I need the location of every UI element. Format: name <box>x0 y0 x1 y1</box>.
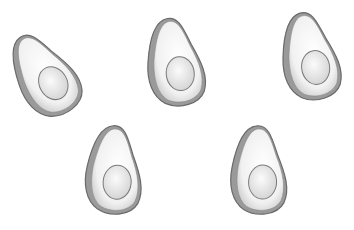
avocado-icon <box>140 13 211 111</box>
avocado-icon <box>81 122 149 218</box>
avocado-2 <box>140 13 211 111</box>
avocado-icon <box>274 6 348 106</box>
avocado-5 <box>227 123 292 217</box>
avocado-4 <box>81 122 149 218</box>
avocado-3 <box>274 6 348 106</box>
avocado-1 <box>0 19 94 129</box>
avocado-icon <box>227 123 292 217</box>
avocado-icon <box>0 19 94 129</box>
